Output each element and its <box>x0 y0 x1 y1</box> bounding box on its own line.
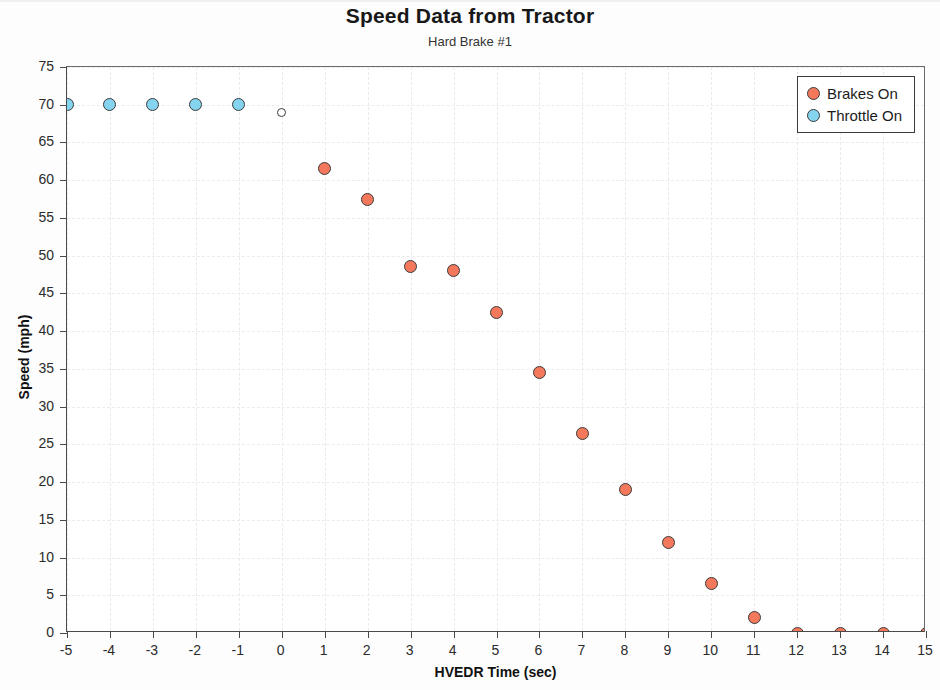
x-axis-tick <box>282 631 283 638</box>
data-point <box>404 260 417 273</box>
gridline-horizontal <box>67 67 924 68</box>
legend-marker-icon <box>807 109 820 122</box>
x-axis-tick <box>668 631 669 638</box>
gridline-vertical <box>539 67 540 631</box>
x-tick-label: 4 <box>433 642 473 658</box>
x-axis-tick <box>368 631 369 638</box>
y-tick-label: 0 <box>14 624 54 640</box>
gridline-vertical <box>411 67 412 631</box>
data-point <box>67 98 74 111</box>
data-point <box>490 306 503 319</box>
y-axis-tick <box>60 558 67 559</box>
x-axis-tick <box>797 631 798 638</box>
x-axis-tick <box>239 631 240 638</box>
x-axis-title: HVEDR Time (sec) <box>66 664 925 680</box>
x-axis-tick <box>325 631 326 638</box>
x-axis-tick <box>840 631 841 638</box>
x-axis-tick <box>411 631 412 638</box>
y-axis-tick <box>60 520 67 521</box>
y-tick-label: 15 <box>14 511 54 527</box>
gridline-horizontal <box>67 482 924 483</box>
data-point <box>361 193 374 206</box>
y-axis-tick <box>60 407 67 408</box>
y-axis-tick <box>60 218 67 219</box>
gridline-vertical <box>368 67 369 631</box>
y-axis-tick <box>60 595 67 596</box>
data-point <box>748 611 761 624</box>
chart-title: Speed Data from Tractor <box>0 4 940 28</box>
gridline-vertical <box>153 67 154 631</box>
y-tick-label: 10 <box>14 549 54 565</box>
x-axis-tick <box>196 631 197 638</box>
x-tick-label: 2 <box>347 642 387 658</box>
legend-item[interactable]: Throttle On <box>807 104 902 126</box>
gridline-horizontal <box>67 407 924 408</box>
x-tick-label: 12 <box>776 642 816 658</box>
gridline-vertical <box>282 67 283 631</box>
x-axis-tick <box>153 631 154 638</box>
x-axis-tick <box>625 631 626 638</box>
gridline-horizontal <box>67 218 924 219</box>
gridline-horizontal <box>67 256 924 257</box>
plot-canvas <box>67 67 924 631</box>
y-axis-tick <box>60 180 67 181</box>
x-axis-tick <box>711 631 712 638</box>
legend-label: Throttle On <box>827 107 902 124</box>
x-axis-tick <box>754 631 755 638</box>
gridline-vertical <box>754 67 755 631</box>
gridline-vertical <box>110 67 111 631</box>
x-tick-label: -4 <box>89 642 129 658</box>
data-point <box>447 264 460 277</box>
y-axis-tick <box>60 369 67 370</box>
legend-marker-icon <box>807 87 820 100</box>
data-point <box>232 98 245 111</box>
gridline-vertical <box>239 67 240 631</box>
data-point <box>146 98 159 111</box>
y-tick-label: 60 <box>14 171 54 187</box>
x-tick-label: 7 <box>561 642 601 658</box>
x-tick-label: -1 <box>218 642 258 658</box>
x-tick-label: 13 <box>819 642 859 658</box>
x-axis-tick <box>582 631 583 638</box>
gridline-vertical <box>711 67 712 631</box>
x-tick-label: 8 <box>604 642 644 658</box>
gridline-horizontal <box>67 520 924 521</box>
y-axis-tick <box>60 256 67 257</box>
y-tick-label: 5 <box>14 586 54 602</box>
chart-subtitle: Hard Brake #1 <box>0 34 940 49</box>
y-axis-tick <box>60 67 67 68</box>
gridline-horizontal <box>67 444 924 445</box>
x-tick-label: 14 <box>862 642 902 658</box>
y-axis-tick <box>60 331 67 332</box>
y-tick-label: 65 <box>14 133 54 149</box>
gridline-vertical <box>625 67 626 631</box>
y-axis-tick <box>60 142 67 143</box>
y-axis-tick <box>60 482 67 483</box>
gridline-vertical <box>454 67 455 631</box>
plot-area: Brakes OnThrottle On <box>66 66 925 632</box>
legend-label: Brakes On <box>827 85 898 102</box>
y-axis-title: Speed (mph) <box>16 237 32 477</box>
speed-chart: Speed Data from Tractor Hard Brake #1 Br… <box>0 0 940 690</box>
y-axis-tick <box>60 293 67 294</box>
gridline-vertical <box>582 67 583 631</box>
data-point <box>189 98 202 111</box>
y-axis-tick <box>60 444 67 445</box>
x-tick-label: 5 <box>476 642 516 658</box>
gridline-horizontal <box>67 180 924 181</box>
y-axis-tick <box>60 633 67 634</box>
x-tick-label: 11 <box>733 642 773 658</box>
x-axis-tick <box>454 631 455 638</box>
x-axis-tick <box>67 631 68 638</box>
y-tick-label: 75 <box>14 58 54 74</box>
data-point <box>533 366 546 379</box>
data-point <box>920 627 925 632</box>
x-tick-label: -5 <box>46 642 86 658</box>
y-tick-label: 55 <box>14 209 54 225</box>
gridline-horizontal <box>67 369 924 370</box>
data-point <box>277 108 286 117</box>
gridline-horizontal <box>67 595 924 596</box>
gridline-horizontal <box>67 142 924 143</box>
legend-item[interactable]: Brakes On <box>807 82 902 104</box>
x-axis-tick <box>926 631 927 638</box>
